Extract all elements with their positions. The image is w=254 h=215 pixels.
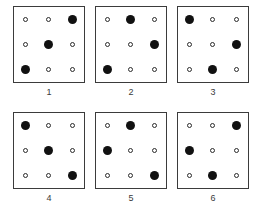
open-dot-icon-bottom-center [128,173,133,178]
filled-dot-icon-middle-center [44,146,53,155]
dot-slot-top-center [119,113,142,138]
panel-box-3 [177,6,249,83]
dot-slot-bottom-center [119,57,142,82]
panel-label-6: 6 [177,192,249,204]
dot-slot-bottom-left [96,57,119,82]
filled-dot-icon-top-center [126,121,135,130]
dot-slot-bottom-right [61,57,84,82]
dot-slot-middle-left [96,32,119,57]
panel-box-2 [95,6,167,83]
panel-box-6 [177,112,249,189]
dot-slot-top-left [178,7,201,32]
panel-row-bottom: 4 5 6 [0,112,254,212]
panel-label-1: 1 [13,86,85,98]
open-dot-icon-bottom-right [70,67,75,72]
dot-slot-top-left [14,113,37,138]
open-dot-icon-bottom-center [46,67,51,72]
open-dot-icon-middle-left [23,148,28,153]
filled-dot-icon-top-left [21,121,30,130]
dot-slot-middle-left [14,138,37,163]
dot-slot-top-center [37,113,60,138]
open-dot-icon-middle-left [105,42,110,47]
dot-grid-1 [14,7,84,82]
open-dot-icon-middle-center [128,42,133,47]
panel-2: 2 [95,6,172,106]
panel-3: 3 [177,6,254,106]
filled-dot-icon-middle-left [185,146,194,155]
dot-slot-bottom-right [143,57,166,82]
panel-5: 5 [95,112,172,212]
open-dot-icon-top-left [105,17,110,22]
dot-slot-middle-right [225,32,248,57]
dot-slot-bottom-center [201,163,224,188]
open-dot-icon-top-left [187,123,192,128]
dot-slot-top-right [61,7,84,32]
open-dot-icon-top-center [210,17,215,22]
dot-slot-middle-center [37,32,60,57]
panel-4: 4 [13,112,90,212]
panel-row-top: 1 2 3 [0,6,254,106]
filled-dot-icon-top-center [126,15,135,24]
dot-slot-bottom-right [225,57,248,82]
open-dot-icon-middle-right [70,148,75,153]
dot-slot-middle-right [225,138,248,163]
open-dot-icon-top-right [152,17,157,22]
open-dot-icon-middle-right [234,148,239,153]
open-dot-icon-top-right [70,123,75,128]
dot-slot-middle-left [178,138,201,163]
dot-slot-top-left [178,113,201,138]
filled-dot-icon-bottom-left [103,65,112,74]
open-dot-icon-bottom-center [128,67,133,72]
open-dot-icon-bottom-right [234,67,239,72]
filled-dot-icon-middle-center [44,40,53,49]
panel-box-5 [95,112,167,189]
open-dot-icon-bottom-left [105,173,110,178]
filled-dot-icon-top-right [232,121,241,130]
dot-slot-top-center [37,7,60,32]
dot-slot-middle-center [37,138,60,163]
dot-slot-bottom-left [178,57,201,82]
filled-dot-icon-middle-right [232,40,241,49]
filled-dot-icon-bottom-center [208,65,217,74]
open-dot-icon-top-right [152,123,157,128]
dot-slot-bottom-left [96,163,119,188]
filled-dot-icon-bottom-center [208,171,217,180]
filled-dot-icon-middle-right [150,40,159,49]
dot-slot-bottom-right [61,163,84,188]
open-dot-icon-middle-right [70,42,75,47]
panel-1: 1 [13,6,90,106]
open-dot-icon-middle-center [128,148,133,153]
open-dot-icon-top-left [105,123,110,128]
filled-dot-icon-top-left [185,15,194,24]
open-dot-icon-top-left [23,17,28,22]
open-dot-icon-bottom-left [187,173,192,178]
open-dot-icon-middle-left [187,42,192,47]
filled-dot-icon-bottom-left [21,65,30,74]
panel-label-5: 5 [95,192,167,204]
dot-slot-bottom-right [143,163,166,188]
dot-slot-top-center [201,113,224,138]
panel-label-4: 4 [13,192,85,204]
open-dot-icon-top-center [46,123,51,128]
open-dot-icon-bottom-left [187,67,192,72]
dot-slot-middle-left [96,138,119,163]
dot-slot-top-right [225,113,248,138]
dot-slot-top-left [96,113,119,138]
open-dot-icon-bottom-right [152,67,157,72]
dot-slot-top-right [61,113,84,138]
dot-slot-middle-center [201,138,224,163]
dot-slot-middle-right [143,32,166,57]
panel-box-4 [13,112,85,189]
dot-slot-bottom-left [14,163,37,188]
dot-slot-middle-center [119,138,142,163]
dot-slot-middle-left [14,32,37,57]
open-dot-icon-middle-right [152,148,157,153]
dot-slot-top-center [119,7,142,32]
filled-dot-icon-bottom-right [68,171,77,180]
dot-grid-2 [96,7,166,82]
dot-slot-bottom-center [37,163,60,188]
dot-slot-bottom-left [14,57,37,82]
open-dot-icon-middle-center [210,42,215,47]
panel-box-1 [13,6,85,83]
filled-dot-icon-bottom-right [150,171,159,180]
